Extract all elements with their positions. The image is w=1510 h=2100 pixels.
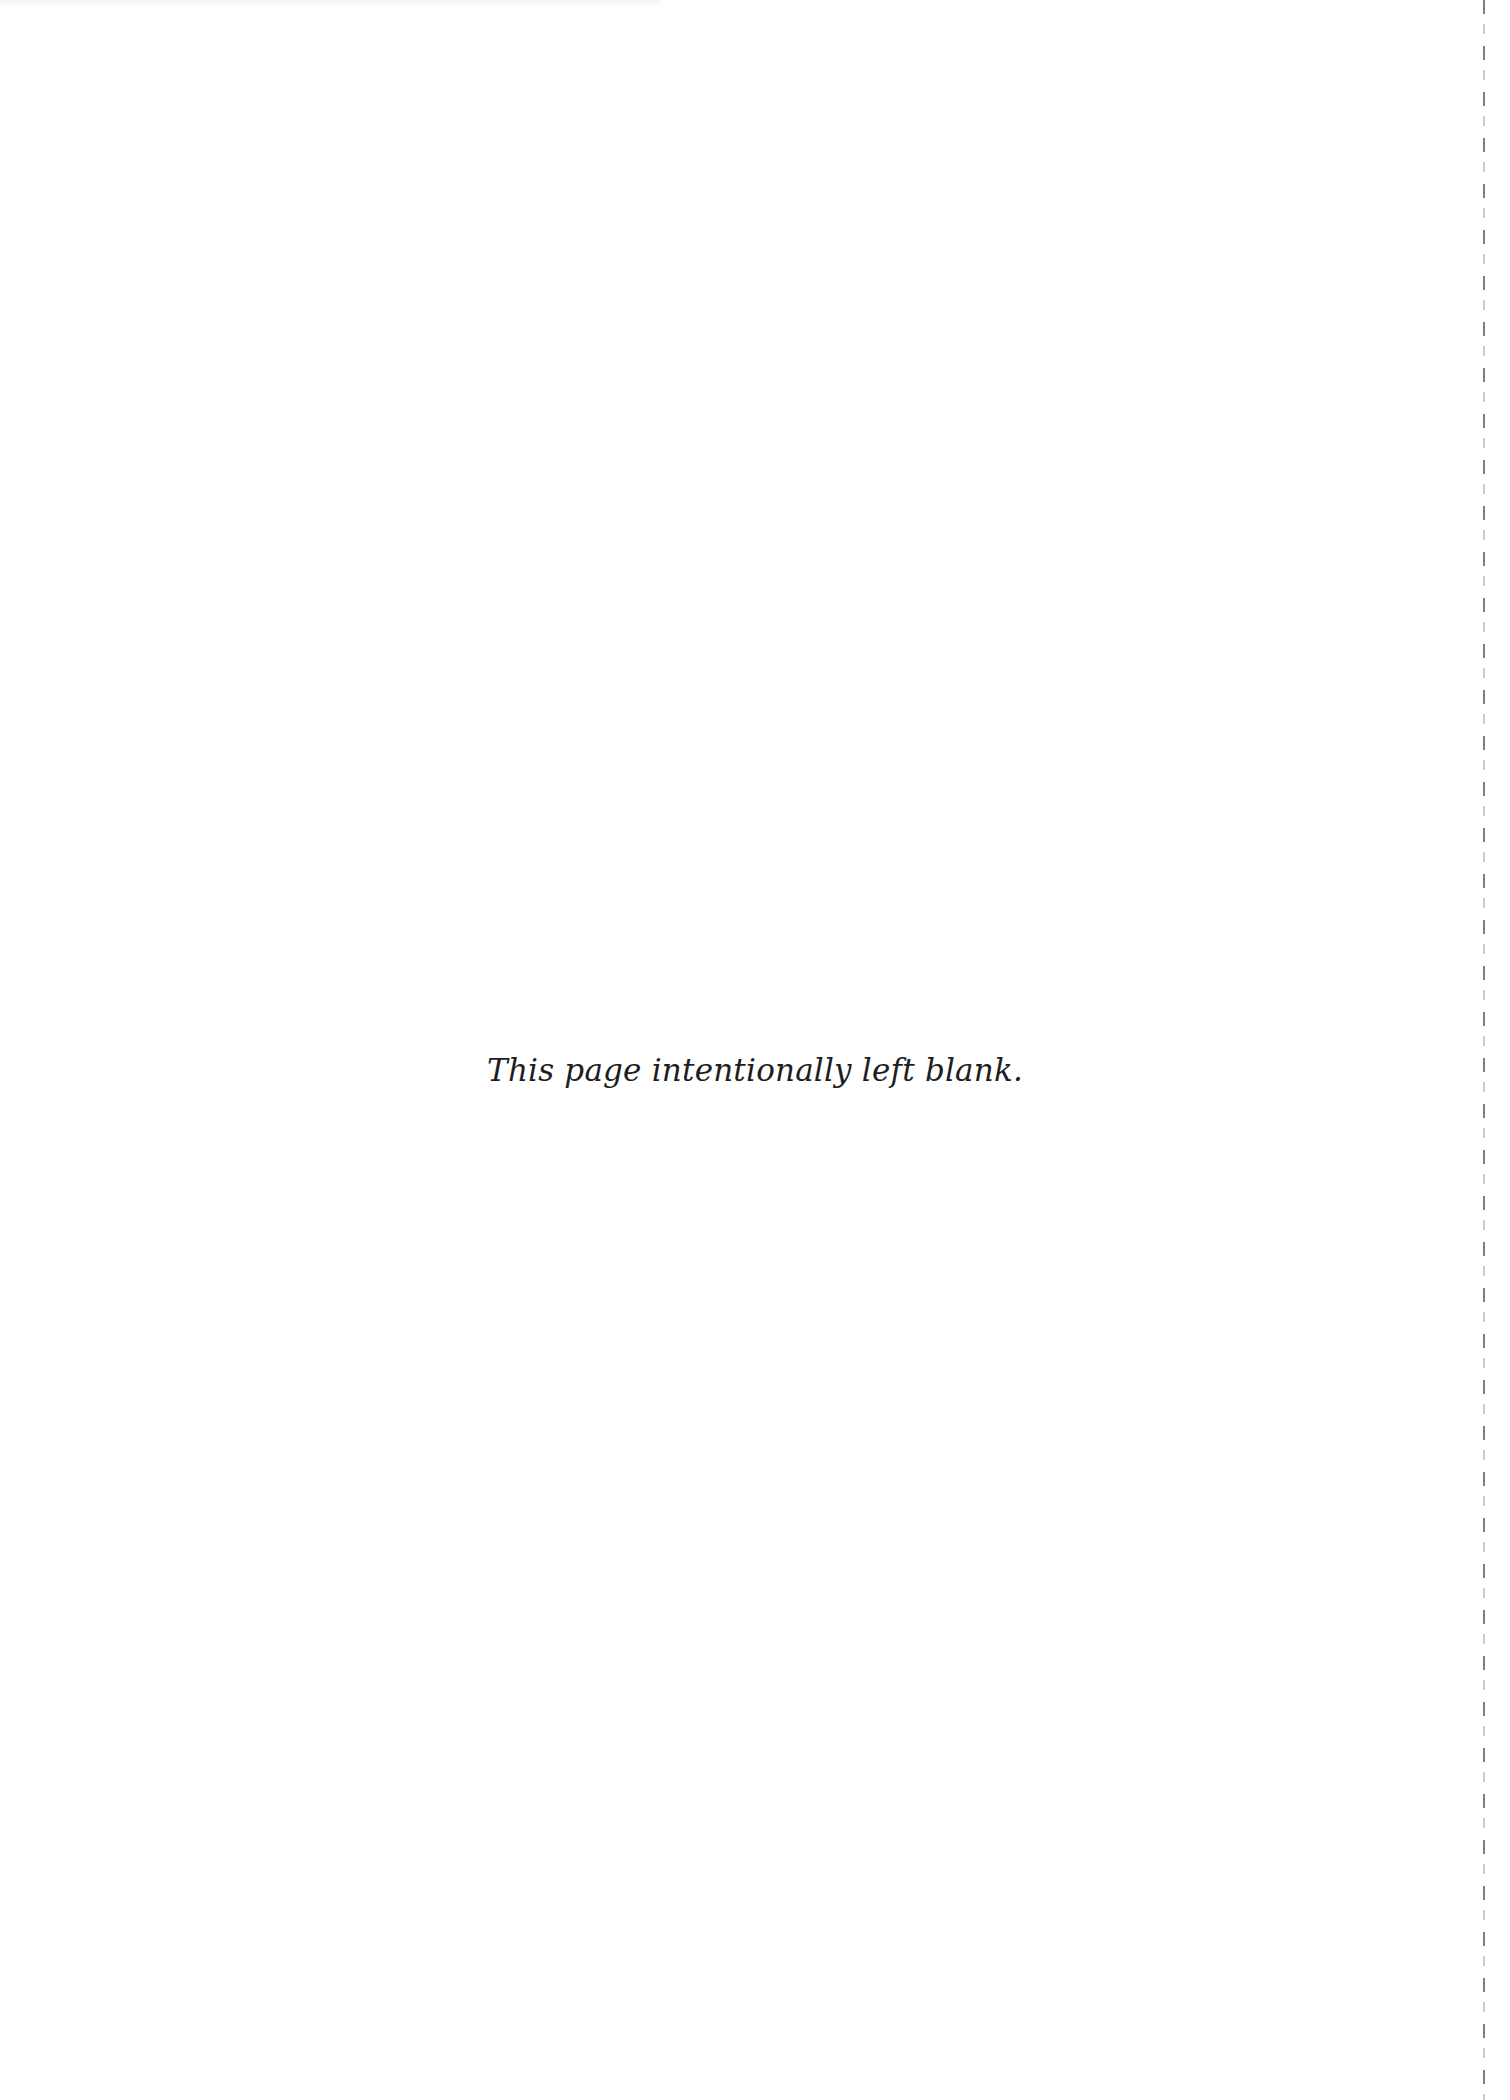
blank-page-notice: This page intentionally left blank. (0, 1052, 1510, 1088)
page-edge-dashed-line (1483, 0, 1485, 2100)
document-page: This page intentionally left blank. (0, 0, 1510, 2100)
scan-bleed-through (0, 0, 660, 8)
